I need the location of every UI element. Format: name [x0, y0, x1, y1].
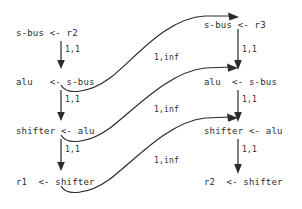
node-left-3: shifter <- alu: [16, 126, 95, 136]
node-right-4: r2 <- shifter: [204, 177, 283, 187]
edge-label-left-3: 1,1: [65, 145, 80, 154]
edge-label-cross-3: 1,inf: [154, 156, 179, 165]
right-vertical-edge-3: [234, 139, 242, 174]
right-vertical-edge-1: [234, 29, 242, 70]
node-right-1: s-bus <- r3: [204, 20, 266, 30]
left-vertical-edge-1: [57, 41, 65, 69]
edge-label-right-1: 1,1: [242, 45, 257, 54]
left-vertical-edge-2: [57, 90, 65, 121]
edge-label-left-1: 1,1: [65, 45, 80, 54]
node-left-1: s-bus <- r2: [16, 28, 78, 38]
right-vertical-edge-2: [234, 90, 242, 122]
left-vertical-edge-3: [57, 139, 65, 171]
node-right-3: shifter <- alu: [204, 126, 283, 136]
edge-label-right-2: 1,1: [242, 95, 257, 104]
node-left-2: alu <- s-bus: [16, 77, 95, 87]
node-right-2: alu <- s-bus: [204, 77, 277, 87]
edge-label-cross-1: 1,inf: [154, 53, 179, 62]
edge-label-cross-2: 1,inf: [154, 105, 179, 114]
edge-label-left-2: 1,1: [65, 95, 80, 104]
node-left-4: r1 <- shifter: [16, 177, 95, 187]
edge-label-right-3: 1,1: [242, 145, 257, 154]
diagram-canvas: s-bus <- r2 alu <- s-bus shifter <- alu …: [0, 0, 302, 209]
